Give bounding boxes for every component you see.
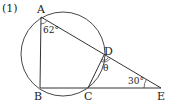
point-label-E: E bbox=[157, 91, 165, 102]
point-label-A: A bbox=[37, 4, 45, 15]
geometry-figure: (1) A B C D E 62° θ 30° bbox=[0, 0, 171, 109]
point-label-B: B bbox=[34, 91, 42, 102]
angle-arc-E bbox=[144, 79, 146, 88]
angle-label-theta: θ bbox=[103, 64, 108, 73]
point-label-C: C bbox=[84, 91, 92, 102]
angle-label-E: 30° bbox=[128, 77, 144, 86]
problem-number: (1) bbox=[2, 3, 18, 14]
segment-AB bbox=[40, 17, 41, 88]
circumcircle bbox=[21, 12, 105, 96]
angle-arc-A bbox=[41, 21, 47, 24]
point-label-D: D bbox=[104, 46, 113, 57]
angle-label-A: 62° bbox=[43, 26, 59, 35]
